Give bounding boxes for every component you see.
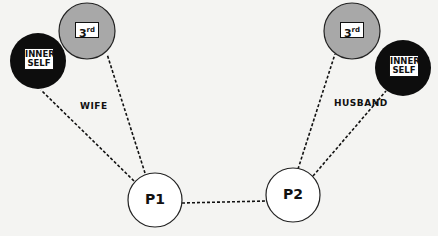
edge-p1-p2: [182, 201, 266, 203]
left-third-label: 3rd: [75, 22, 99, 38]
husband-label: HUSBAND: [334, 98, 388, 108]
left-inner-self-label: INNER SELF: [24, 48, 54, 70]
right-inner-self-label: INNER SELF: [389, 55, 419, 77]
right-third-label: 3rd: [340, 22, 364, 38]
edge-p1-left-third: [107, 54, 145, 173]
p2-label: P2: [273, 186, 313, 202]
edge-p2-right-third: [298, 54, 335, 169]
p1-label: P1: [135, 191, 175, 207]
wife-label: WIFE: [80, 101, 108, 111]
diagram-canvas: [0, 0, 438, 236]
